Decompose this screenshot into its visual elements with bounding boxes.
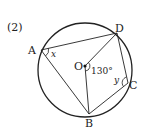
center-point-O — [83, 64, 86, 67]
segment-OD — [85, 33, 117, 66]
angle-label-x: x — [51, 49, 56, 59]
label-A: A — [27, 44, 37, 57]
inscribed-quadrilateral-diagram: (2) A D O C B x y 130° — [0, 0, 144, 137]
angle-arc-x — [46, 48, 49, 56]
label-B: B — [85, 117, 93, 130]
label-C: C — [129, 79, 137, 92]
segment-OB — [85, 66, 89, 114]
label-D: D — [115, 22, 124, 35]
angle-label-130: 130° — [91, 66, 113, 76]
problem-number: (2) — [7, 21, 23, 34]
angle-label-y: y — [113, 75, 120, 85]
label-O: O — [74, 60, 83, 73]
